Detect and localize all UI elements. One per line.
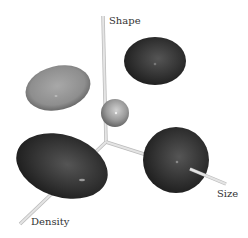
upper-right-ellipsoid [124,37,186,85]
round-ellipsoid [143,127,209,193]
shape-axis-label: Shape [109,15,141,26]
3d-shape-diagram [0,0,248,238]
flat-disc-ellipsoid [21,59,96,118]
size-axis [106,142,150,156]
density-axis-label: Density [31,216,69,227]
size-axis-label: Size [217,188,238,199]
elongated-ellipsoid [8,122,117,210]
